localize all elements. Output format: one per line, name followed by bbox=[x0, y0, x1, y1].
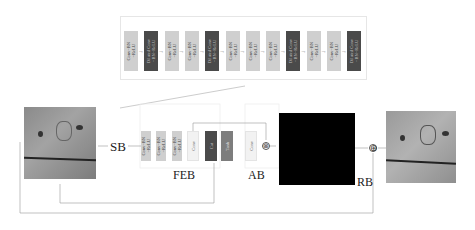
conv-bn-relu-block: Conv+BN +ReLU bbox=[172, 131, 182, 161]
tanh-block: Tanh bbox=[221, 131, 233, 161]
conv-block: Conv bbox=[187, 131, 199, 161]
noisy-input-image bbox=[24, 107, 96, 179]
conv-bn-relu-block: Conv+BN +ReLU bbox=[156, 131, 166, 161]
conv-bn-relu-block: Conv+BN +ReLU bbox=[141, 131, 151, 161]
sb-label: SB bbox=[110, 139, 126, 155]
concat-block: Cat bbox=[205, 131, 217, 161]
feb-label: FEB bbox=[173, 168, 195, 183]
denoised-output-image bbox=[386, 111, 456, 183]
multiply-operator-icon: ⊗ bbox=[262, 142, 270, 150]
rb-label: RB bbox=[357, 175, 373, 190]
residual-noise-map bbox=[279, 113, 355, 185]
ab-label: AB bbox=[248, 168, 265, 183]
add-operator-icon: ⊕ bbox=[369, 144, 377, 152]
ab-conv-block: Conv bbox=[245, 131, 257, 161]
